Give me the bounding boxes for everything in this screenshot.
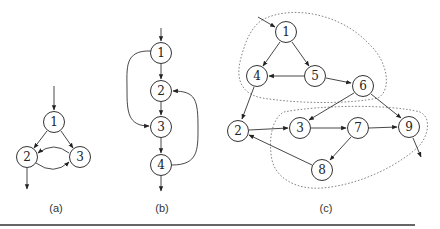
graph-c-node-4: 4 <box>247 66 268 87</box>
graph-a-node-2: 2 <box>17 147 38 168</box>
graph-a-node-3: 3 <box>70 147 91 168</box>
svg-text:2: 2 <box>234 124 242 138</box>
graph-c-node-3: 3 <box>290 118 311 139</box>
edge-c-1-5 <box>292 42 309 66</box>
graph-b-node-1: 1 <box>151 43 172 64</box>
caption-b: (b) <box>155 202 168 214</box>
edge-c-9-exit <box>413 138 421 157</box>
svg-text:3: 3 <box>157 120 165 134</box>
edge-c-7-9 <box>369 127 397 128</box>
graph-c-node-1: 1 <box>276 22 297 43</box>
graph-c-node-7: 7 <box>348 118 369 139</box>
edge-c-entry-1 <box>258 17 275 27</box>
svg-text:9: 9 <box>405 120 413 134</box>
graph-a-node-1: 1 <box>44 112 65 133</box>
graph-b-node-4: 4 <box>151 155 172 176</box>
graph-c-node-5: 5 <box>305 66 326 87</box>
edge-b-4-2 <box>172 91 198 165</box>
graph-b: 1 2 3 4 (b) <box>127 28 198 214</box>
svg-text:1: 1 <box>157 46 165 60</box>
svg-text:2: 2 <box>23 150 31 164</box>
graph-c-node-6: 6 <box>353 76 374 97</box>
svg-text:1: 1 <box>282 25 290 39</box>
svg-text:8: 8 <box>318 163 326 177</box>
edge-c-6-3 <box>309 93 354 120</box>
edge-a-3-2 <box>38 147 69 153</box>
edge-c-5-6 <box>326 78 351 83</box>
edge-c-8-2 <box>249 135 312 165</box>
edge-a-1-2 <box>34 131 47 148</box>
svg-text:5: 5 <box>311 69 319 83</box>
edge-a-1-3 <box>61 131 73 148</box>
svg-text:6: 6 <box>359 79 367 93</box>
svg-text:4: 4 <box>253 69 261 83</box>
edge-a-2-3 <box>36 162 69 169</box>
graph-a: 1 2 3 (a) <box>17 86 91 214</box>
graph-c-node-2: 2 <box>228 121 249 142</box>
graph-c-node-9: 9 <box>399 117 420 138</box>
graph-b-node-2: 2 <box>151 81 172 102</box>
graph-b-node-3: 3 <box>151 117 172 138</box>
edge-c-1-4 <box>263 42 280 66</box>
svg-text:2: 2 <box>157 84 165 98</box>
svg-text:3: 3 <box>76 150 84 164</box>
caption-c: (c) <box>320 202 333 214</box>
svg-text:7: 7 <box>354 121 362 135</box>
edge-b-1-3 <box>127 51 151 126</box>
edge-c-6-9 <box>371 94 401 118</box>
graph-c-node-8: 8 <box>312 160 333 181</box>
graph-c: 1 4 5 6 2 3 7 9 <box>228 12 428 214</box>
caption-a: (a) <box>49 202 62 214</box>
svg-text:3: 3 <box>296 121 304 135</box>
svg-text:1: 1 <box>50 115 58 129</box>
edge-c-7-8 <box>330 137 351 160</box>
edge-c-2-3 <box>249 128 288 130</box>
control-flow-graphs-figure: 1 2 3 (a) 1 2 3 <box>0 0 440 229</box>
svg-text:4: 4 <box>157 158 165 172</box>
